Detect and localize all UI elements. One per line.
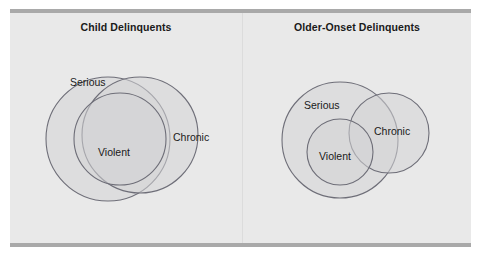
venn-diagram-older-onset-delinquents: SeriousChronicViolent (243, 13, 471, 243)
venn-label-violent: Violent (98, 146, 130, 158)
venn-diagram-child-delinquents: SeriousChronicViolent (10, 13, 242, 243)
venn-label-serious: Serious (70, 76, 106, 88)
venn-label-chronic: Chronic (173, 131, 209, 143)
panel-child-delinquents: Child Delinquents SeriousChronicViolent (10, 13, 242, 243)
venn-label-violent: Violent (319, 150, 351, 162)
panel-older-onset-delinquents: Older-Onset Delinquents SeriousChronicVi… (243, 13, 471, 243)
figure-container: Child Delinquents SeriousChronicViolent … (0, 0, 485, 263)
venn-label-serious: Serious (304, 99, 340, 111)
venn-circle-violent (74, 93, 166, 185)
figure-bottom-rule (10, 243, 471, 247)
venn-label-chronic: Chronic (374, 125, 410, 137)
